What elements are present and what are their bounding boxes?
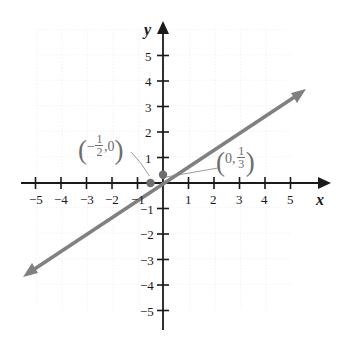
y-tick-label--4: −4 [140, 279, 154, 292]
graph-canvas [0, 0, 341, 342]
y-intercept-annotation: (0, 13) [216, 145, 255, 176]
right-denominator: 3 [237, 158, 245, 170]
y-tick-label-4: 4 [145, 75, 152, 88]
x-tick-label-2: 2 [210, 193, 217, 206]
left-close-paren: ) [114, 135, 123, 165]
x-intercept-annotation: (−12,0) [78, 133, 123, 164]
x-tick-label--2: −2 [105, 193, 119, 206]
x-intercept-point [146, 179, 154, 187]
right-close-paren: ) [246, 147, 255, 177]
left-fraction: 12 [95, 133, 103, 158]
y-tick-label--5: −5 [140, 305, 154, 318]
right-numerator: 1 [237, 145, 245, 158]
right-open-paren: ( [216, 147, 225, 177]
y-tick-label-5: 5 [145, 50, 152, 63]
y-intercept-point [159, 171, 167, 179]
left-sign: − [87, 139, 95, 154]
x-tick-label--5: −5 [29, 193, 43, 206]
x-tick-label-5: 5 [287, 193, 294, 206]
x-tick-label--3: −3 [80, 193, 94, 206]
x-tick-label-3: 3 [236, 193, 243, 206]
coordinate-plane-figure: −5 −4 −3 −2 −1 1 2 3 4 5 5 4 3 2 1 −1 −2… [0, 0, 341, 342]
y-tick-label-1: 1 [145, 152, 152, 165]
y-tick-label-2: 2 [145, 126, 152, 139]
left-open-paren: ( [78, 135, 87, 165]
right-first-value: 0 [225, 151, 232, 166]
x-tick-label-1: 1 [185, 193, 192, 206]
x-axis-label: x [316, 192, 324, 208]
left-numerator: 1 [95, 133, 103, 146]
y-tick-label--2: −2 [140, 228, 154, 241]
y-tick-label--1: −1 [140, 203, 154, 216]
y-tick-label--3: −3 [140, 254, 154, 267]
x-tick-label--4: −4 [54, 193, 68, 206]
left-denominator: 2 [95, 146, 103, 158]
y-tick-label-3: 3 [145, 101, 152, 114]
right-fraction: 13 [237, 145, 245, 170]
x-tick-label-4: 4 [261, 193, 268, 206]
y-axis-label: y [144, 22, 151, 38]
right-comma: , [232, 151, 236, 166]
